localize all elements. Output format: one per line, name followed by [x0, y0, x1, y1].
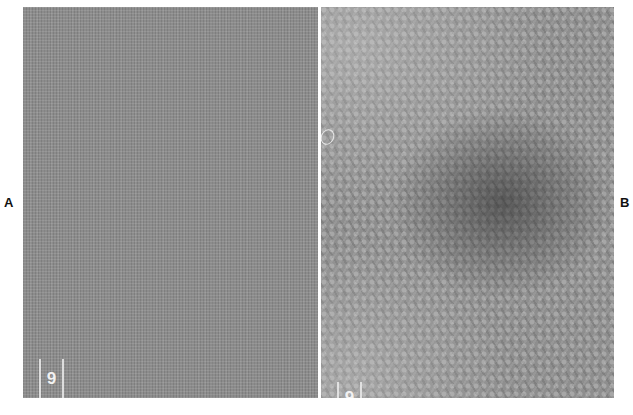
panel-b-label: B — [620, 196, 629, 209]
panel-b-marker-text: 6 — [339, 386, 360, 398]
panel-b-scale-marker: 6 — [337, 382, 362, 398]
panel-b-image: 6 — [321, 7, 614, 398]
ring-annotation-icon — [321, 127, 337, 147]
panel-a-image: 6 — [23, 7, 318, 398]
panel-a-marker-text: 6 — [41, 367, 62, 387]
panel-a-scale-marker: 6 — [39, 359, 64, 398]
figure: 6 6 A B — [0, 0, 633, 415]
panel-a-label: A — [4, 196, 13, 209]
